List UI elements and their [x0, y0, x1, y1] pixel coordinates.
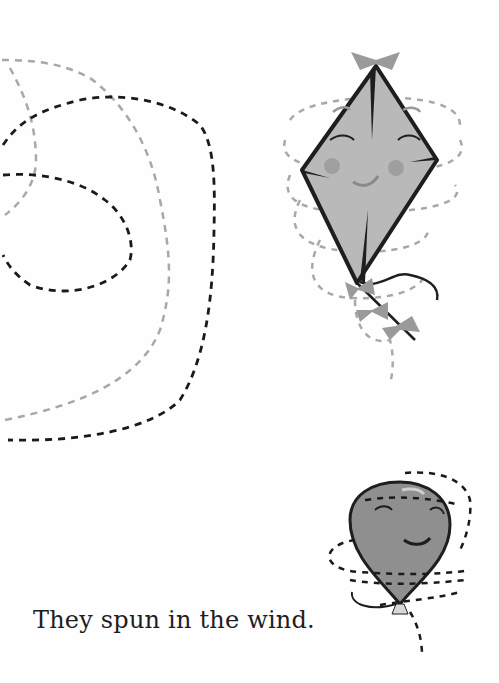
- book-page: They spun in the wind.: [0, 0, 499, 683]
- kite-illustration: [284, 52, 462, 385]
- balloon-illustration: [329, 472, 470, 655]
- story-caption: They spun in the wind.: [33, 606, 315, 634]
- black-dashed-loop: [3, 97, 214, 440]
- gray-dashed-loop: [2, 60, 169, 420]
- tracing-illustration: [0, 0, 499, 683]
